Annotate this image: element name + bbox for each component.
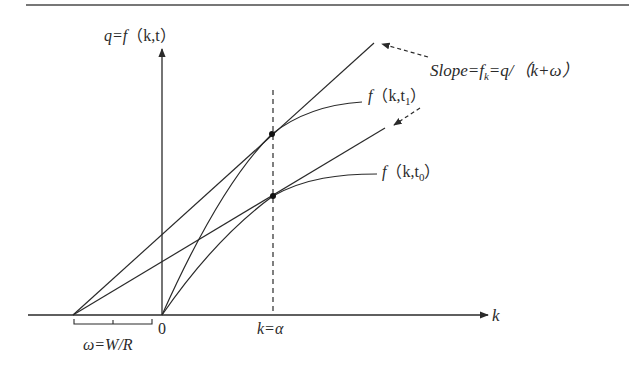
tangency-point-t1 — [269, 131, 275, 137]
alpha-label: k=α — [257, 321, 283, 337]
curve-f-k-t0 — [162, 174, 377, 315]
origin-label: 0 — [158, 321, 166, 337]
curve-t1-args: （k,t — [372, 87, 404, 104]
curve-t0-args: （k,t — [386, 163, 418, 180]
tangent-line-t0 — [73, 128, 385, 315]
slope-label-prefix: Slope=f — [430, 61, 484, 80]
tangent-line-t1 — [73, 43, 374, 315]
slope-pointer-lower — [394, 108, 420, 125]
omega-label: ω=W/R — [83, 337, 133, 353]
tangency-point-t0 — [270, 193, 276, 199]
slope-label-suffix: =q/（k+ω） — [489, 61, 579, 80]
omega-bracket — [74, 319, 152, 324]
slope-label: Slope=fk=q/（k+ω） — [430, 62, 579, 82]
curve-t1-close: ） — [410, 87, 426, 104]
y-axis-label-args: （k,t） — [127, 27, 175, 44]
curve-label-t1: f（k,t1） — [368, 88, 426, 107]
slope-pointer-upper — [382, 44, 428, 57]
curve-t0-close: ） — [424, 163, 440, 180]
y-axis-label: q=f（k,t） — [104, 28, 176, 44]
curve-f-k-t1 — [162, 102, 362, 315]
y-axis-label-prefix: q=f — [104, 27, 127, 44]
curve-label-t0: f（k,t0） — [382, 164, 440, 183]
x-axis-label: k — [492, 307, 500, 324]
diagram-canvas — [0, 0, 629, 368]
